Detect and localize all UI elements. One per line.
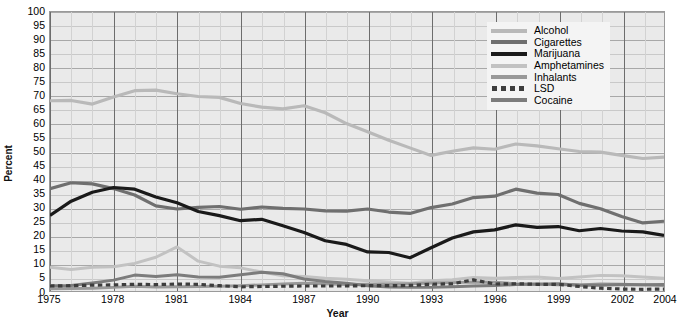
x-tick-label: 1987: [292, 294, 315, 305]
legend-dot: [510, 86, 515, 91]
x-tick-label: 2004: [653, 294, 676, 305]
legend-swatch-icon: [491, 48, 527, 59]
legend-line: [491, 75, 527, 79]
legend-dot: [501, 86, 506, 91]
x-tick-label: 1981: [165, 294, 188, 305]
y-tick-label: 75: [33, 76, 45, 87]
x-tick-label: 1996: [483, 294, 506, 305]
legend-item-cocaine[interactable]: Cocaine: [491, 95, 604, 107]
x-tick-label: 1990: [356, 294, 379, 305]
y-tick-label: 25: [33, 216, 45, 227]
legend-item-inhalants[interactable]: Inhalants: [491, 71, 604, 83]
chart-legend: AlcoholCigarettesMarijuanaAmphetaminesIn…: [487, 22, 610, 110]
legend-line: [491, 52, 527, 56]
legend-swatch-icon: [491, 95, 527, 106]
legend-item-label: Inhalants: [534, 72, 577, 83]
y-tick-label: 65: [33, 104, 45, 115]
legend-item-label: Amphetamines: [534, 60, 604, 71]
legend-dot: [492, 86, 497, 91]
legend-item-label: Alcohol: [534, 25, 568, 36]
legend-swatch-icon: [491, 25, 527, 36]
legend-line: [491, 40, 527, 44]
legend-swatch-icon: [491, 83, 527, 94]
x-tick-label: 2002: [611, 294, 634, 305]
y-tick-label: 70: [33, 90, 45, 101]
legend-line: [491, 29, 527, 33]
legend-item-label: Marijuana: [534, 48, 580, 59]
y-tick-label: 55: [33, 132, 45, 143]
legend-item-label: Cigarettes: [534, 37, 582, 48]
legend-swatch-icon: [491, 37, 527, 48]
legend-item-label: Cocaine: [534, 95, 573, 106]
legend-swatch-icon: [491, 72, 527, 83]
legend-item-alcohol[interactable]: Alcohol: [491, 25, 604, 37]
legend-dot: [519, 86, 524, 91]
y-tick-label: 60: [33, 118, 45, 129]
y-tick-label: 5: [39, 272, 45, 283]
y-tick-label: 15: [33, 244, 45, 255]
y-tick-label: 95: [33, 20, 45, 31]
legend-item-label: LSD: [534, 83, 554, 94]
x-tick-label: 1984: [228, 294, 251, 305]
y-tick-label: 30: [33, 202, 45, 213]
legend-line: [491, 98, 527, 102]
x-tick-label: 1993: [420, 294, 443, 305]
x-axis-title: Year: [0, 307, 675, 319]
legend-item-cigarettes[interactable]: Cigarettes: [491, 37, 604, 49]
x-tick-label: 1978: [101, 294, 124, 305]
y-tick-label: 85: [33, 48, 45, 59]
legend-item-marijuana[interactable]: Marijuana: [491, 48, 604, 60]
x-tick-label: 1999: [547, 294, 570, 305]
y-tick-label: 90: [33, 34, 45, 45]
y-tick-label: 10: [33, 258, 45, 269]
x-tick-label: 1975: [37, 294, 60, 305]
y-tick-label: 80: [33, 62, 45, 73]
y-tick-label: 40: [33, 174, 45, 185]
y-tick-label: 20: [33, 230, 45, 241]
legend-line: [491, 64, 527, 68]
series-line-cigarettes: [50, 183, 664, 223]
y-tick-label: 45: [33, 160, 45, 171]
y-axis-title-text: Percent: [3, 145, 14, 182]
y-axis-tick-labels: 1009590858075706560555045403530252015105…: [22, 0, 47, 321]
y-tick-label: 35: [33, 188, 45, 199]
y-tick-label: 100: [27, 6, 45, 17]
y-axis-title: Percent: [0, 118, 16, 208]
legend-item-amphetamines[interactable]: Amphetamines: [491, 60, 604, 72]
series-line-amphetamines: [50, 247, 664, 283]
legend-item-lsd[interactable]: LSD: [491, 83, 604, 95]
x-axis-title-text: Year: [326, 307, 348, 319]
legend-swatch-icon: [491, 60, 527, 71]
y-tick-label: 50: [33, 146, 45, 157]
